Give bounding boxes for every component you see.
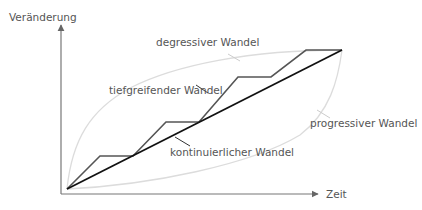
continuous-change-label: kontinuierlicher Wandel	[170, 146, 294, 158]
y-axis-label: Veränderung	[9, 11, 77, 23]
x-axis-label: Zeit	[326, 188, 347, 200]
continuous-change-line	[67, 50, 342, 189]
continuous-leader	[175, 137, 190, 146]
deep-change-label: tiefgreifender Wandel	[109, 84, 223, 96]
change-types-diagram: Veränderung Zeit degressiver Wandel tief…	[0, 0, 422, 210]
degressive-label: degressiver Wandel	[156, 36, 259, 48]
progressive-label: progressiver Wandel	[310, 117, 417, 129]
